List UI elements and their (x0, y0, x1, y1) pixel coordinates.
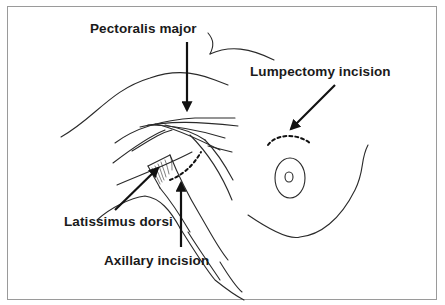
breast-contour (248, 145, 368, 238)
latissimus-arrow (115, 168, 158, 210)
anatomy-illustration (0, 0, 445, 305)
areola (275, 158, 305, 198)
nipple (285, 172, 293, 182)
shoulder-hook (208, 33, 213, 54)
label-lumpectomy-incision: Lumpectomy incision (250, 64, 391, 79)
label-axillary-incision: Axillary incision (104, 253, 209, 268)
lumpectomy-incision-line (268, 136, 310, 145)
lumpectomy-arrow (291, 85, 335, 129)
back-contour (210, 49, 274, 60)
label-latissimus-dorsi: Latissimus dorsi (64, 214, 173, 229)
label-pectoralis-major: Pectoralis major (90, 21, 197, 36)
